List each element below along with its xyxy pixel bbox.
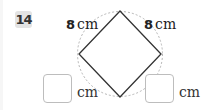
answer-unit-left: cm <box>77 84 98 100</box>
answer-input-left[interactable] <box>43 74 72 103</box>
side-label-top-left: 8cm <box>66 16 98 33</box>
answer-unit-right: cm <box>179 84 200 100</box>
answer-input-right[interactable] <box>145 74 174 103</box>
side-label-top-right: 8cm <box>144 16 176 33</box>
